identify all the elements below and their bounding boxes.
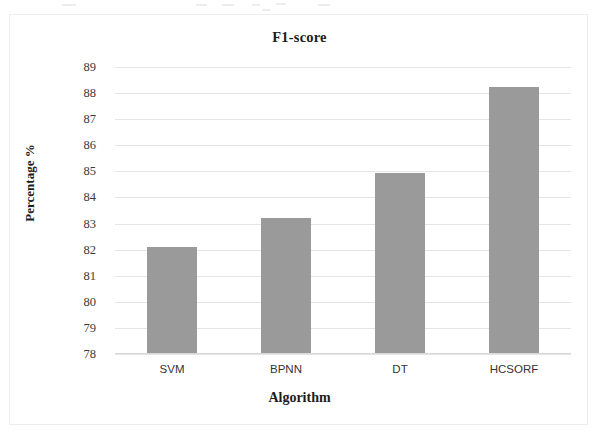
x-tick-label-bpnn: BPNN (270, 363, 302, 375)
chart-figure: F1-score Percentage % 898887868584838281… (9, 14, 588, 425)
y-tick-label: 88 (84, 86, 97, 101)
y-tick-label: 87 (84, 112, 97, 127)
y-tick-label: 79 (84, 320, 97, 335)
chart-title: F1-score (10, 29, 589, 46)
y-tick-label: 84 (84, 190, 97, 205)
y-tick-label: 78 (84, 347, 97, 362)
x-axis-line (115, 353, 571, 354)
x-tick-label-svm: SVM (160, 363, 185, 375)
y-tick-label: 80 (84, 294, 97, 309)
bar-svm (147, 247, 197, 354)
y-axis-tick-labels: 898887868584838281807978 (10, 67, 106, 354)
y-tick-label: 82 (84, 242, 97, 257)
bar-bpnn (261, 218, 311, 354)
y-tick-label: 86 (84, 138, 97, 153)
plot-area (115, 67, 571, 354)
bar-hcsorf (489, 87, 539, 354)
y-tick-label: 83 (84, 216, 97, 231)
y-tick-label: 81 (84, 268, 97, 283)
x-axis-title: Algorithm (10, 390, 589, 406)
bar-series (115, 67, 571, 354)
x-axis-tick-labels: SVMBPNNDTHCSORF (115, 363, 571, 383)
y-tick-label: 85 (84, 164, 97, 179)
y-tick-label: 89 (84, 60, 97, 75)
scan-artifact-marks (0, 0, 598, 12)
bar-dt (375, 173, 425, 354)
x-tick-label-dt: DT (392, 363, 407, 375)
gridline (115, 354, 571, 355)
x-tick-label-hcsorf: HCSORF (490, 363, 539, 375)
